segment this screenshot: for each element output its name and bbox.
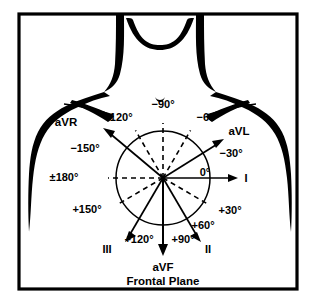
figure-frame xyxy=(19,14,297,289)
angle-label-plus-150: +150° xyxy=(72,203,101,215)
angle-label-minus-60: −60° xyxy=(196,111,219,123)
angle-label-plus-minus-180: ±180° xyxy=(50,171,79,183)
angle-label-plus-60: +60° xyxy=(191,219,214,231)
angle-label-minus-30: −30° xyxy=(219,147,242,159)
angle-label-zero: 0° xyxy=(200,166,211,178)
ecg-axis-figure: −90° −120° −60° −150° −30° ±180° 0° +150… xyxy=(0,0,313,303)
angle-label-minus-120: −120° xyxy=(103,111,132,123)
lead-label-avl: aVL xyxy=(228,125,249,137)
angle-label-plus-90: +90° xyxy=(171,233,194,245)
lead-label-avr: aVR xyxy=(55,116,78,128)
lead-label-i: I xyxy=(244,172,247,184)
lead-label-iii: III xyxy=(102,243,111,255)
angle-label-minus-90: −90° xyxy=(151,98,174,110)
angle-label-plus-120: +120° xyxy=(124,233,153,245)
figure-caption: Frontal Plane xyxy=(127,275,200,287)
lead-label-ii: II xyxy=(205,243,211,255)
frontal-plane-diagram: −90° −120° −60° −150° −30° ±180° 0° +150… xyxy=(0,0,313,303)
lead-label-avf: aVF xyxy=(152,261,173,273)
angle-label-minus-150: −150° xyxy=(70,142,99,154)
angle-label-plus-30: +30° xyxy=(218,204,241,216)
